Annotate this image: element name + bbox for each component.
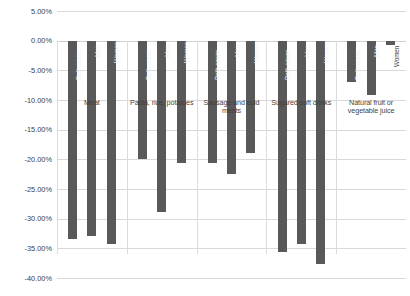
series-label: Women: [254, 42, 260, 63]
series-label: Men: [305, 45, 311, 57]
series-label: Both sexes: [76, 50, 82, 80]
bar[interactable]: [297, 41, 306, 244]
series-label: Both sexes: [285, 50, 291, 80]
category-label: Meat: [58, 99, 126, 108]
y-axis-tick: -20.00%: [0, 155, 52, 164]
chart-container: 5.00%0.00%-5.00%-10.00%-15.00%-20.00%-25…: [0, 0, 410, 296]
series-label: Women: [324, 42, 330, 63]
bar[interactable]: [386, 41, 395, 45]
y-axis-tick: 5.00%: [0, 7, 52, 16]
series-label: Both sexes: [146, 50, 152, 80]
series-label: Men: [95, 45, 101, 57]
bar[interactable]: [107, 41, 116, 244]
bar[interactable]: [316, 41, 325, 265]
y-axis-tick: -15.00%: [0, 125, 52, 134]
category-label: Sausage and cold meats: [198, 99, 266, 116]
category-label: Natural fruit or vegetable juice: [337, 99, 405, 116]
series-label: Men: [165, 45, 171, 57]
series-label: Women: [114, 42, 120, 63]
y-axis-tick: -35.00%: [0, 244, 52, 253]
series-label: Men: [235, 45, 241, 57]
category-separator: [57, 41, 58, 254]
series-label: Men: [374, 45, 380, 57]
category-separator: [197, 41, 198, 254]
gridline: [57, 248, 406, 249]
plot-area: Both sexesMenWomenBoth sexesMenWomenBoth…: [57, 11, 406, 278]
bar[interactable]: [87, 41, 96, 237]
category-separator: [336, 41, 337, 254]
series-label: Women: [184, 42, 190, 63]
gridline: [57, 11, 406, 12]
gridline: [57, 278, 406, 279]
category-label: Pasta, rice, potatoes: [128, 99, 196, 108]
category-label: Sugared soft drinks: [267, 99, 335, 108]
bar[interactable]: [157, 41, 166, 212]
category-separator: [127, 41, 128, 254]
y-axis-tick: -30.00%: [0, 214, 52, 223]
y-axis-tick: -40.00%: [0, 274, 52, 283]
series-label: Both sexes: [215, 50, 221, 80]
y-axis-tick: -5.00%: [0, 66, 52, 75]
series-label: Both sexes: [355, 50, 361, 80]
y-axis-tick: -10.00%: [0, 96, 52, 105]
y-axis-tick: -25.00%: [0, 185, 52, 194]
series-label: Women: [394, 46, 400, 67]
category-separator: [266, 41, 267, 254]
y-axis-tick: 0.00%: [0, 36, 52, 45]
